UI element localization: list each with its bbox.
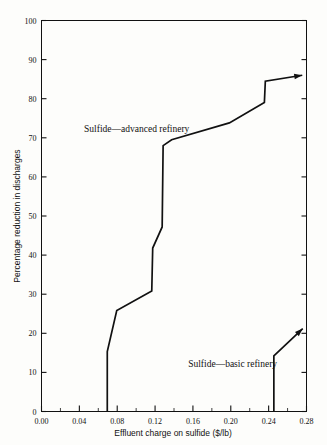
x-tick-label: 0.00 (35, 417, 49, 426)
x-tick-label: 0.20 (224, 417, 238, 426)
x-tick-label: 0.08 (110, 417, 124, 426)
series-annotation-label-1: Sulfide—basic refinery (188, 359, 277, 369)
x-tick-label: 0.28 (300, 417, 314, 426)
x-tick-label: 0.24 (262, 417, 276, 426)
x-axis-title: Effluent charge on sulfide ($/lb) (114, 428, 232, 438)
y-tick-label: 90 (29, 56, 37, 65)
chart-background (0, 0, 327, 445)
y-tick-label: 80 (29, 95, 37, 104)
x-tick-label: 0.16 (186, 417, 200, 426)
y-tick-label: 40 (29, 251, 37, 260)
y-tick-label: 70 (29, 134, 37, 143)
y-tick-label: 100 (25, 17, 37, 26)
chart-container: 0.000.040.080.120.160.200.240.28 0102030… (0, 0, 327, 445)
y-tick-label: 0 (33, 408, 37, 417)
y-tick-label: 10 (29, 368, 37, 377)
y-tick-label: 50 (29, 212, 37, 221)
y-tick-label: 30 (29, 290, 37, 299)
series-annotation-label-0: Sulfide—advanced refinery (84, 124, 189, 134)
y-tick-label: 60 (29, 173, 37, 182)
y-axis-title: Percentage reduction in discharges (12, 149, 22, 282)
y-tick-label: 20 (29, 329, 37, 338)
x-tick-label: 0.04 (72, 417, 86, 426)
x-tick-label: 0.12 (148, 417, 162, 426)
chart-figure: 0.000.040.080.120.160.200.240.28 0102030… (0, 0, 327, 445)
